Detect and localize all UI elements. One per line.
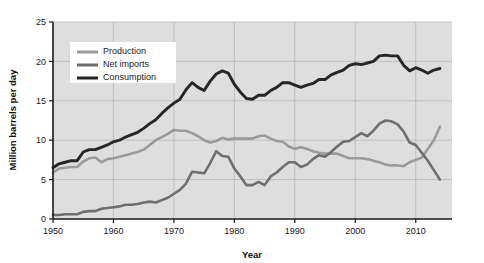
x-tick-label: 2010 [406,226,426,236]
legend-label-consumption: Consumption [103,72,156,82]
y-axis-title-group: Million barrels per day [7,69,18,171]
chart-legend: ProductionNet importsConsumption [70,42,176,83]
y-tick-label: 20 [36,57,46,67]
y-tick-label: 25 [36,17,46,27]
legend-label-net-imports: Net imports [103,59,150,69]
x-tick-label: 1950 [43,226,63,236]
x-tick-label: 2000 [345,226,365,236]
x-axis-tick-labels: 1950196019701980199020002010 [43,226,426,236]
y-tick-label: 5 [41,175,46,185]
x-tick-label: 1990 [285,226,305,236]
x-tick-label: 1980 [224,226,244,236]
y-tick-label: 15 [36,96,46,106]
x-tick-label: 1960 [103,226,123,236]
y-tick-label: 0 [41,214,46,224]
x-axis-title: Year [242,249,262,260]
x-axis-title-group: Year [242,249,262,260]
chart-figure: 0510152025 1950196019701980199020002010 … [0,0,484,263]
y-tick-label: 10 [36,135,46,145]
y-axis-tick-labels: 0510152025 [36,17,46,224]
x-tick-label: 1970 [164,226,184,236]
legend-label-production: Production [103,46,146,56]
y-axis-title: Million barrels per day [7,69,18,171]
oil-production-consumption-line-chart: 0510152025 1950196019701980199020002010 … [0,0,484,263]
